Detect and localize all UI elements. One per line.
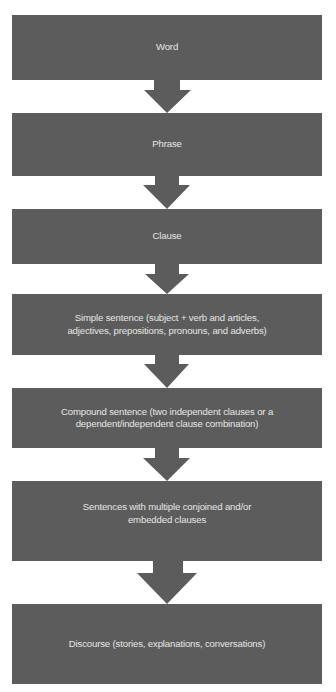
node-clause: Clause — [12, 209, 322, 264]
arrow-down-icon — [143, 448, 190, 481]
node-word: Word — [12, 15, 322, 80]
arrow-down-icon — [144, 80, 191, 113]
node-label: Clause — [153, 230, 182, 243]
node-label-line: adjectives, prepositions, pronouns, and … — [67, 325, 266, 338]
node-label-line: embedded clauses — [128, 514, 206, 527]
node-discourse: Discourse (stories, explanations, conver… — [12, 604, 322, 684]
node-label-line: dependent/independent clause combination… — [76, 418, 259, 431]
node-label: Word — [156, 41, 178, 54]
node-label-line: Sentences with multiple conjoined and/or — [83, 501, 251, 514]
node-label-line: Simple sentence (subject + verb and arti… — [75, 312, 259, 325]
node-label: Discourse (stories, explanations, conver… — [69, 638, 266, 651]
arrow-down-icon — [137, 561, 197, 604]
node-phrase: Phrase — [12, 113, 322, 176]
node-compound-sentence: Compound sentence (two independent claus… — [12, 388, 322, 448]
arrow-down-icon — [145, 264, 189, 294]
node-label: Phrase — [152, 138, 182, 151]
arrow-down-icon — [144, 355, 189, 388]
node-label-line: Compound sentence (two independent claus… — [61, 406, 273, 419]
arrow-down-icon — [143, 176, 190, 209]
node-simple-sentence: Simple sentence (subject + verb and arti… — [12, 294, 322, 355]
node-multiple-clauses: Sentences with multiple conjoined and/or… — [12, 481, 322, 561]
